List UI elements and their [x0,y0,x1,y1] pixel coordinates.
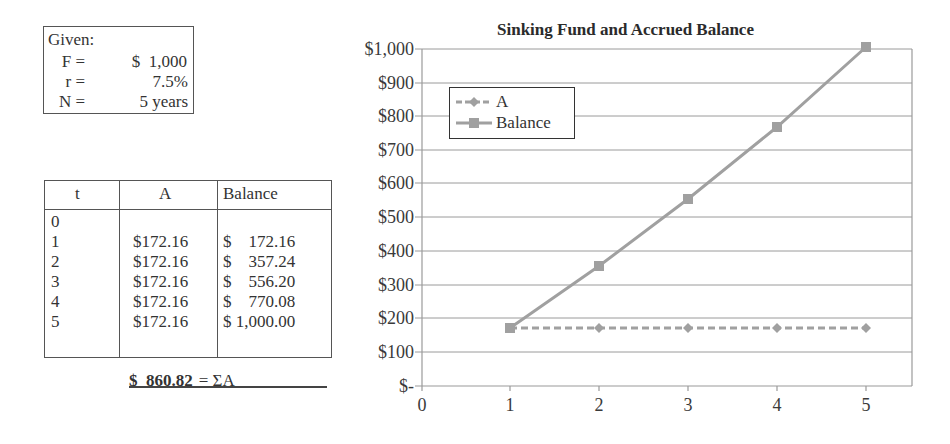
series-balance-line [505,42,871,333]
legend-label: A [496,92,508,112]
dashed-diamond-line-icon [454,95,494,109]
line-chart-plot [0,0,950,444]
solid-square-line-icon [454,116,494,130]
legend-label: Balance [496,113,551,133]
chart-legend: A Balance [449,87,575,139]
series-a-line [510,323,871,333]
